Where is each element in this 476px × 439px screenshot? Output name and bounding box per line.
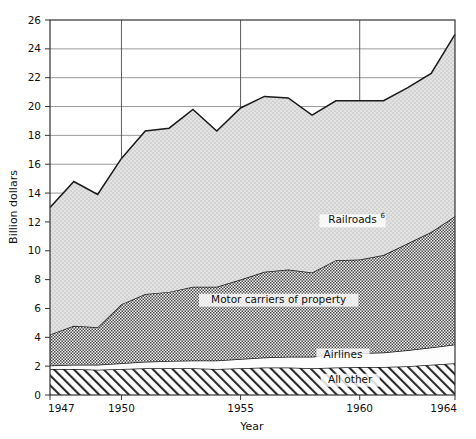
y-tick-label: 2 xyxy=(34,360,41,372)
y-tick-label: 18 xyxy=(28,129,41,141)
x-tick-label: 1960 xyxy=(346,402,373,414)
x-tick-label: 1964 xyxy=(430,402,457,414)
y-tick-label: 20 xyxy=(28,100,41,112)
y-tick-label: 16 xyxy=(28,158,42,170)
y-tick-label: 24 xyxy=(28,42,42,54)
x-axis-title: Year xyxy=(239,420,264,433)
series-label-all-other: All other xyxy=(328,373,373,385)
y-tick-label: 6 xyxy=(34,302,41,314)
y-tick-label: 4 xyxy=(34,331,41,343)
y-tick-label: 26 xyxy=(28,14,42,26)
chart-container: 02468101214161820222426 1947195019551960… xyxy=(0,0,476,439)
series-footnote-railroads: 6 xyxy=(381,212,386,220)
y-tick-label: 8 xyxy=(34,273,41,285)
series-label-motor-carriers-of-property: Motor carriers of property xyxy=(211,293,346,305)
x-axis-ticks: 19471950195519601964 xyxy=(48,395,457,414)
y-tick-label: 10 xyxy=(28,244,41,256)
stacked-area-chart: 02468101214161820222426 1947195019551960… xyxy=(0,0,476,439)
y-tick-label: 22 xyxy=(28,71,41,83)
y-axis-ticks: 02468101214161820222426 xyxy=(28,14,50,401)
y-tick-label: 14 xyxy=(28,187,42,199)
x-tick-label: 1950 xyxy=(108,402,135,414)
x-tick-label: 1947 xyxy=(48,402,75,414)
series-label-railroads: Railroads xyxy=(328,213,376,225)
y-axis-title: Billion dollars xyxy=(7,170,20,244)
series-label-airlines: Airlines xyxy=(324,348,363,360)
x-tick-label: 1955 xyxy=(227,402,254,414)
y-tick-label: 0 xyxy=(34,389,41,401)
y-tick-label: 12 xyxy=(28,216,41,228)
